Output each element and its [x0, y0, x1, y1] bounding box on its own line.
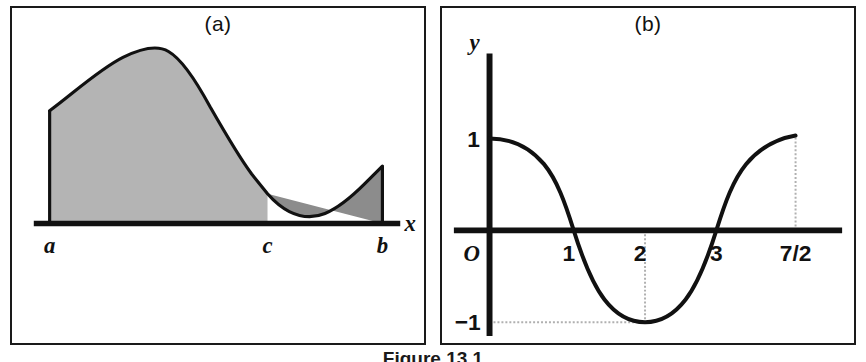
- y-tick-label-1: 1: [467, 126, 480, 152]
- origin-label-b: O: [463, 241, 479, 266]
- tick-label-b: b: [377, 233, 388, 258]
- tick-label-c: c: [262, 233, 272, 258]
- y-tick-label-minus-1: −1: [455, 309, 481, 335]
- figure-caption: Figure 13.1: [0, 348, 866, 362]
- figure-container: (a) a c b x (b): [0, 0, 866, 362]
- x-tick-label-3: 3: [710, 240, 723, 266]
- y-axis-label-b: y: [467, 30, 481, 55]
- tick-label-a: a: [44, 233, 55, 258]
- panel-a-plot: a c b x: [12, 8, 424, 343]
- panel-a: (a) a c b x: [10, 6, 426, 345]
- light-shaded-region: [50, 48, 268, 223]
- x-tick-label-seven-halves: 7/2: [780, 240, 812, 266]
- panel-b-plot: O y 1 −1 1 2 3 7/2: [442, 8, 854, 343]
- x-axis-label-a: x: [403, 211, 415, 236]
- panel-b: (b) O y 1 −1 1 2 3 7/2: [440, 6, 856, 345]
- x-tick-label-1: 1: [562, 240, 575, 266]
- x-tick-label-2: 2: [634, 240, 647, 266]
